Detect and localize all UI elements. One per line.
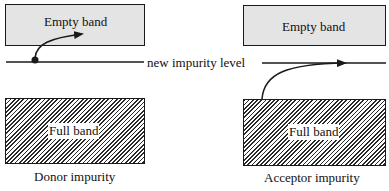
acceptor-arrow-icon	[262, 63, 345, 99]
impurity-level-lines	[0, 0, 389, 191]
impurity-level-label: new impurity level	[147, 55, 245, 71]
donor-arrow-icon	[35, 34, 82, 58]
